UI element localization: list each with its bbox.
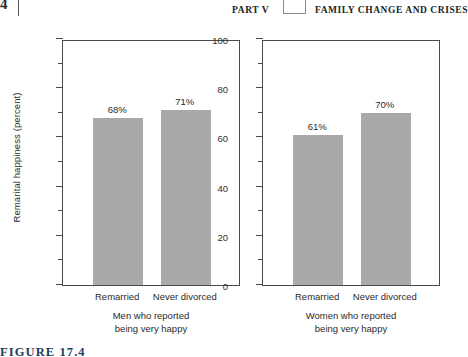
y-axis-tick-label: 40 — [217, 184, 228, 194]
bar — [361, 113, 411, 285]
y-axis-tick-major — [56, 87, 63, 88]
y-axis-title: Remarital happiness (percent) — [11, 68, 22, 248]
y-axis-tick-major — [56, 235, 63, 236]
y-axis-tick-minor — [58, 161, 63, 162]
bar — [293, 135, 343, 285]
y-axis-tick-minor — [258, 112, 263, 113]
y-axis-tick-minor — [58, 210, 63, 211]
bar-value-label: 68% — [87, 104, 147, 115]
figure-number: FIGURE 17.4 — [0, 345, 86, 357]
y-axis-tick-major — [56, 136, 63, 137]
y-axis-tick-major — [256, 38, 263, 39]
y-axis-tick-minor — [258, 210, 263, 211]
bar-value-label: 61% — [287, 121, 347, 132]
group-caption-line: Men who reported — [62, 310, 240, 323]
group-caption-line: being very happy — [262, 323, 440, 336]
group-caption-women: Women who reportedbeing very happy — [262, 310, 440, 335]
y-axis-tick-major — [56, 38, 63, 39]
y-axis-tick-minor — [258, 161, 263, 162]
y-axis-tick-major — [56, 186, 63, 187]
y-axis-tick-minor — [58, 112, 63, 113]
y-axis-tick-major — [256, 87, 263, 88]
y-axis-tick-minor — [258, 63, 263, 64]
y-axis-tick-label: 80 — [217, 85, 228, 95]
y-axis-tick-major — [56, 284, 63, 285]
bar — [161, 110, 211, 285]
y-axis-tick-label: 60 — [217, 135, 228, 145]
group-caption-men: Men who reportedbeing very happy — [62, 310, 240, 335]
y-axis-tick-minor — [258, 259, 263, 260]
category-label: Never divorced — [340, 291, 430, 302]
group-caption-line: Women who reported — [262, 310, 440, 323]
y-axis-tick-label: 20 — [217, 233, 228, 243]
category-label: Never divorced — [140, 291, 230, 302]
y-axis-tick-label: 100 — [212, 36, 228, 46]
chart-panel-women — [262, 40, 440, 286]
y-axis-tick-major — [256, 235, 263, 236]
y-axis-tick-major — [256, 136, 263, 137]
y-axis-tick-minor — [58, 259, 63, 260]
y-axis-tick-major — [256, 284, 263, 285]
bar — [93, 118, 143, 285]
bar-value-label: 71% — [155, 96, 215, 107]
group-caption-line: being very happy — [62, 323, 240, 336]
y-axis-tick-major — [256, 186, 263, 187]
bar-value-label: 70% — [355, 99, 415, 110]
y-axis-tick-minor — [58, 63, 63, 64]
chart-panel-men: 020406080100 — [62, 40, 240, 286]
